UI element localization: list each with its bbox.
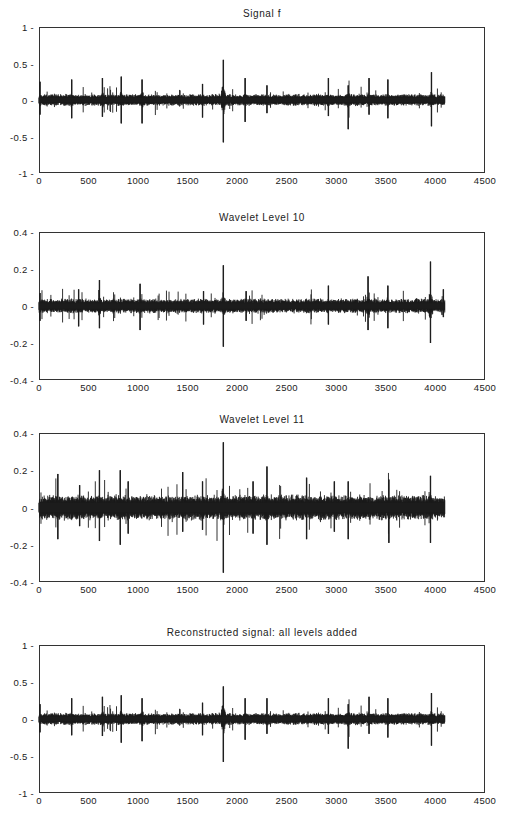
signal-core-band — [39, 717, 445, 722]
signal-path — [39, 686, 445, 761]
signal-trace — [0, 0, 514, 835]
